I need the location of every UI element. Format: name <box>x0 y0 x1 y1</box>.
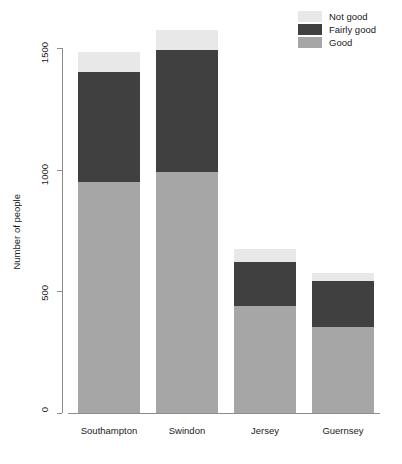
bar-segment-fairly-good[interactable] <box>312 281 374 327</box>
y-axis-line <box>62 48 63 413</box>
legend-entry-not-good: Not good <box>298 10 398 23</box>
y-axis-tick <box>57 170 62 171</box>
bar-segment-good[interactable] <box>78 182 140 413</box>
bar-segment-good[interactable] <box>312 327 374 413</box>
y-axis-tick-label-text: 1500 <box>39 42 51 63</box>
x-axis-line <box>68 413 380 414</box>
bar-stack-guernsey[interactable] <box>312 273 374 413</box>
bar-segment-good[interactable] <box>156 172 218 413</box>
bar-segment-not-good[interactable] <box>312 273 374 281</box>
bar-segment-not-good[interactable] <box>234 249 296 262</box>
legend-label-not-good: Not good <box>329 11 368 22</box>
bar-segment-fairly-good[interactable] <box>156 50 218 172</box>
x-axis-label-swindon: Swindon <box>156 425 218 437</box>
bar-segment-fairly-good[interactable] <box>78 72 140 182</box>
bar-stack-swindon[interactable] <box>156 30 218 413</box>
bar-segment-good[interactable] <box>234 306 296 413</box>
y-axis-tick <box>57 48 62 49</box>
x-axis-label-southampton: Southampton <box>78 425 140 437</box>
bar-stack-southampton[interactable] <box>78 52 140 413</box>
legend-swatch-not-good <box>298 11 322 22</box>
y-axis-tick <box>57 413 62 414</box>
y-axis-tick <box>57 291 62 292</box>
plot-area: 050010001500 SouthamptonSwindonJerseyGue… <box>62 28 380 414</box>
x-axis-label-guernsey: Guernsey <box>312 425 374 437</box>
y-axis-tick-label-text: 1000 <box>39 164 51 185</box>
y-axis-title-text: Number of people <box>11 194 22 270</box>
y-axis-title: Number of people <box>8 0 24 464</box>
bar-segment-not-good[interactable] <box>156 30 218 51</box>
y-axis-tick-label-text: 500 <box>39 285 51 301</box>
stacked-bar-chart: Not good Fairly good Good Number of peop… <box>0 0 402 464</box>
y-axis-tick-label-text: 0 <box>39 407 51 412</box>
bar-segment-not-good[interactable] <box>78 52 140 73</box>
x-axis-label-jersey: Jersey <box>234 425 296 437</box>
bar-segment-fairly-good[interactable] <box>234 262 296 306</box>
bar-stack-jersey[interactable] <box>234 249 296 413</box>
